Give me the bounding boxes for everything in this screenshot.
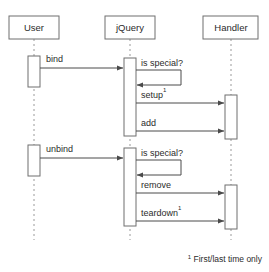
activations-layer [28, 56, 237, 229]
activation-bar-user-act-2[interactable] [28, 145, 40, 176]
activation-rect[interactable] [124, 148, 136, 226]
footnote-layer: 1 First/last time only [188, 254, 263, 264]
activation-rect[interactable] [28, 145, 40, 176]
message-label-msg-remove: remove [141, 180, 171, 190]
message-msg-unbind[interactable]: unbind [40, 144, 123, 158]
self-call-path [136, 160, 181, 175]
message-label-msg-unbind: unbind [46, 144, 73, 154]
self-call-path [136, 70, 181, 85]
lifeline-jquery[interactable]: jQuery [105, 16, 155, 39]
message-msg-add[interactable]: add [136, 118, 224, 131]
sequence-diagram-canvas: UserjQueryHandler bindis special?setup1a… [0, 0, 269, 272]
message-label-msg-bind: bind [46, 54, 63, 64]
lifeline-label-user: User [24, 22, 44, 33]
message-msg-remove[interactable]: remove [136, 180, 224, 193]
activation-bar-jquery-act-2[interactable] [124, 148, 136, 226]
message-label-msg-teardown: teardown1 [141, 205, 182, 218]
lifeline-user[interactable]: User [9, 16, 59, 39]
message-msg-is-special-2[interactable]: is special? [136, 148, 183, 175]
activation-rect[interactable] [28, 56, 40, 87]
activation-rect[interactable] [225, 95, 237, 139]
message-label-msg-add: add [141, 118, 156, 128]
sequence-diagram-svg: UserjQueryHandler bindis special?setup1a… [0, 0, 269, 272]
activation-rect[interactable] [225, 185, 237, 229]
activation-rect[interactable] [124, 58, 136, 136]
lifeline-handler[interactable]: Handler [203, 16, 258, 39]
activation-bar-handler-act-1[interactable] [225, 95, 237, 139]
activation-bar-jquery-act-1[interactable] [124, 58, 136, 136]
message-msg-setup[interactable]: setup1 [136, 87, 224, 103]
message-label-msg-setup: setup1 [141, 87, 167, 100]
message-msg-teardown[interactable]: teardown1 [136, 205, 224, 221]
activation-bar-user-act-1[interactable] [28, 56, 40, 87]
message-label-msg-is-special-2: is special? [141, 148, 183, 158]
lifeline-label-jquery: jQuery [115, 22, 144, 33]
footnote: 1 First/last time only [188, 254, 263, 264]
message-label-msg-is-special-1: is special? [141, 58, 183, 68]
lifeline-label-handler: Handler [214, 22, 247, 33]
message-msg-is-special-1[interactable]: is special? [136, 58, 183, 85]
message-msg-bind[interactable]: bind [40, 54, 123, 68]
activation-bar-handler-act-2[interactable] [225, 185, 237, 229]
